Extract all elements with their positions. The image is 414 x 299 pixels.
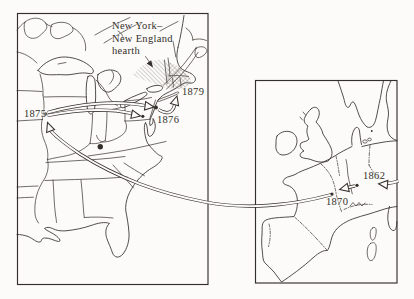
arrow-1862-to-1870 bbox=[338, 183, 355, 193]
dot-1876 bbox=[141, 115, 144, 118]
arrow-1875-to-1876 bbox=[48, 110, 142, 120]
diffusion-map-figure: New York– New England hearth 1875 1876 1… bbox=[0, 0, 414, 299]
map-artwork bbox=[0, 0, 414, 299]
date-label-1876: 1876 bbox=[157, 114, 179, 127]
date-label-1862: 1862 bbox=[363, 170, 385, 183]
hearth-label-line-1: New York– bbox=[112, 20, 173, 33]
dot-1862 bbox=[355, 184, 358, 187]
dot-interior-city bbox=[98, 144, 103, 149]
dot-new-york bbox=[154, 106, 158, 110]
arrow-1870-to-1875-transatlantic bbox=[44, 121, 332, 206]
date-label-1875: 1875 bbox=[24, 108, 46, 121]
location-dots bbox=[44, 106, 359, 196]
date-label-1870: 1870 bbox=[326, 196, 348, 209]
hearth-label: New York– New England hearth bbox=[112, 20, 173, 58]
hearth-label-line-2: New England bbox=[112, 33, 173, 46]
hearth-label-line-3: hearth bbox=[112, 45, 173, 58]
dot-copenhagen bbox=[371, 130, 373, 132]
date-label-1879: 1879 bbox=[182, 86, 204, 99]
diffusion-arrows bbox=[44, 95, 399, 206]
